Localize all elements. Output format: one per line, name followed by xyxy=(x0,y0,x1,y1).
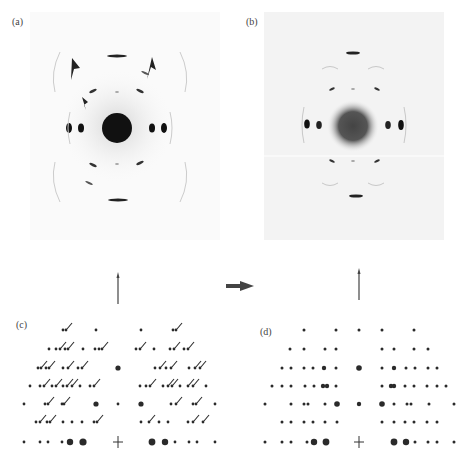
schematic-lattice-c xyxy=(0,0,234,457)
schematic-lattice-d xyxy=(234,0,468,457)
